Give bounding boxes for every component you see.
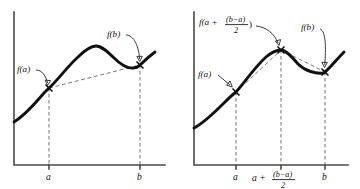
tick-label-b-left: b xyxy=(137,171,142,182)
axes-lines xyxy=(194,12,348,165)
pointer-f-b-right xyxy=(320,29,325,65)
interval-endpoints-panel: f(a) f(b) a b xyxy=(0,0,180,189)
tick-label-a-left: a xyxy=(46,171,51,182)
function-curve xyxy=(194,50,344,128)
pointer-f-b-left xyxy=(126,35,140,59)
right-plot-svg: f(a) f(a + (b−a) 2 ) f(b) a a + (b−a) xyxy=(180,0,360,189)
axes-lines xyxy=(14,12,165,165)
tick-label-b-right: b xyxy=(322,171,327,182)
tick-label-mid-right: a + (b−a) 2 xyxy=(252,170,295,189)
label-f-mid-denominator: 2 xyxy=(234,26,238,35)
tick-label-mid-lead: a + xyxy=(252,172,266,183)
function-curve xyxy=(14,46,155,122)
label-f-a-right: f(a) xyxy=(198,69,211,79)
label-f-mid-open: f(a + xyxy=(199,17,218,27)
label-f-mid-numerator: (b−a) xyxy=(226,15,245,24)
tick-label-a-right: a xyxy=(233,171,238,182)
figure-container: f(a) f(b) a b xyxy=(0,0,360,189)
secant-line-ab xyxy=(49,65,140,88)
label-f-b-right: f(b) xyxy=(301,22,314,32)
tick-label-mid-numerator: (b−a) xyxy=(273,170,292,179)
midpoint-bisection-panel: f(a) f(a + (b−a) 2 ) f(b) a a + (b−a) xyxy=(180,0,360,189)
pointer-f-mid-right xyxy=(256,26,278,43)
label-f-a-left: f(a) xyxy=(17,64,30,74)
label-f-b-left: f(b) xyxy=(107,29,120,39)
tick-label-mid-denominator: 2 xyxy=(281,181,285,189)
left-plot-svg: f(a) f(b) a b xyxy=(0,0,180,189)
label-f-mid-right: f(a + (b−a) 2 ) xyxy=(199,15,252,35)
label-f-mid-close: ) xyxy=(249,19,252,29)
